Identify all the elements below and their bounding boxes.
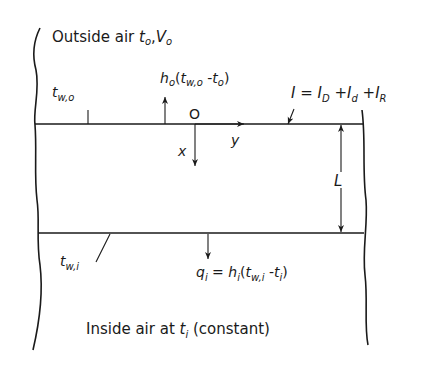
irradiation-label: I = ID +Id +IR bbox=[291, 84, 387, 104]
thickness-label: L bbox=[334, 172, 342, 190]
left-break-edge bbox=[33, 28, 41, 350]
x-axis-label: x bbox=[177, 143, 187, 159]
outside-air-label: Outside air to,Vo bbox=[52, 28, 172, 47]
y-axis-label: y bbox=[230, 132, 240, 148]
irradiation-arrow bbox=[288, 109, 294, 124]
inside-air-label: Inside air at ti (constant) bbox=[86, 320, 270, 340]
inner-wall-temp-leader bbox=[96, 234, 110, 262]
origin-label: O bbox=[189, 106, 200, 122]
inner-wall-temp-label: tw,i bbox=[60, 253, 79, 272]
wall-heat-transfer-diagram: Outside air to,Vo tw,o ho(tw,o -to) O x … bbox=[0, 0, 431, 369]
outer-wall-temp-label: tw,o bbox=[52, 84, 74, 103]
right-break-edge bbox=[362, 110, 368, 345]
inner-flux-label: qi = hi(tw,i -ti) bbox=[196, 264, 288, 283]
outer-convection-label: ho(tw,o -to) bbox=[160, 70, 229, 88]
